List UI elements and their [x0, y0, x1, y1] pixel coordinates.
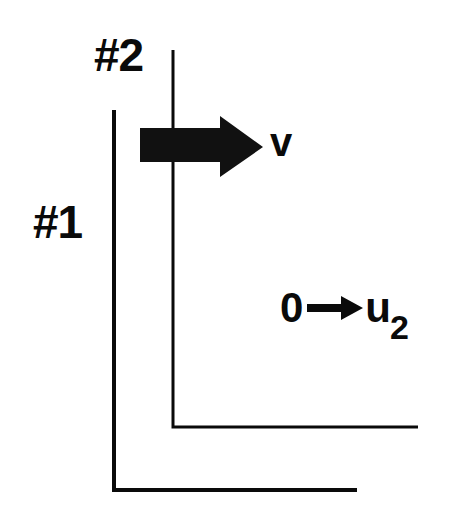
state-before-label: 0 — [280, 287, 303, 329]
velocity-block-arrow-icon — [140, 116, 263, 177]
state-transition-annotation: 0 u2 — [280, 287, 410, 329]
state-after-base: u — [365, 284, 391, 331]
wall-1-label: #1 — [33, 199, 82, 245]
state-transition-arrow-icon — [303, 287, 365, 329]
wave-diagram-svg — [0, 0, 476, 519]
wall-2-path — [173, 50, 418, 427]
state-after-subscript: 2 — [390, 310, 409, 344]
wall-2-label: #2 — [94, 32, 143, 78]
state-after-label: u2 — [365, 287, 410, 329]
velocity-label: v — [270, 122, 292, 162]
diagram-canvas: #2 #1 v 0 u2 — [0, 0, 476, 519]
